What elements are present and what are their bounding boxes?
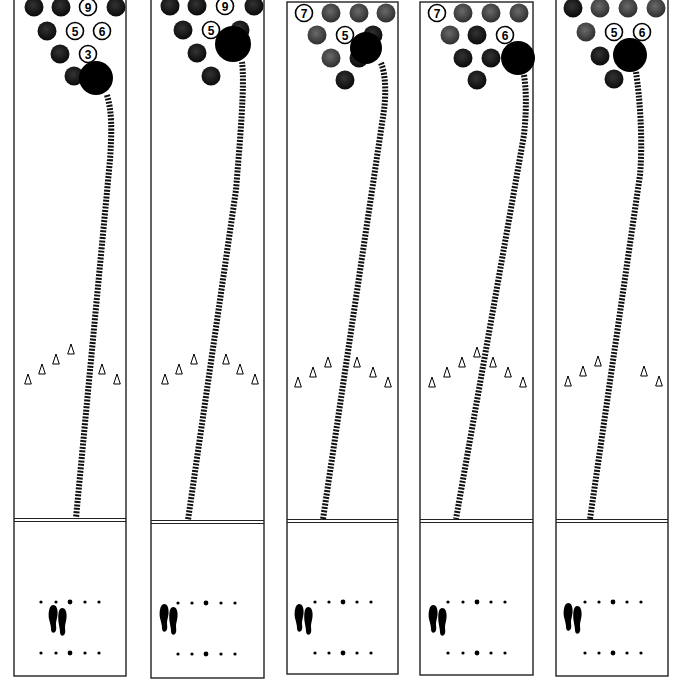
approach-dot	[341, 600, 346, 605]
lane-2: 95	[151, 0, 264, 678]
approach-dot	[597, 651, 600, 654]
knocked-pin	[510, 4, 529, 23]
pin-number: 5	[611, 26, 618, 40]
approach-dot	[176, 652, 179, 655]
lane-diagram-figure: 956395757656	[0, 0, 686, 700]
knocked-pin	[591, 47, 610, 66]
approach-dot	[583, 600, 586, 603]
approach-dot	[461, 600, 464, 603]
lane-outline	[420, 2, 533, 675]
approach-dot	[503, 651, 506, 654]
approach-dot	[97, 651, 100, 654]
approach-dot	[489, 600, 492, 603]
approach-dot	[369, 600, 372, 603]
knocked-pin	[577, 23, 596, 42]
pin-number: 6	[639, 26, 646, 40]
knocked-pin	[202, 67, 221, 86]
approach-dot	[446, 651, 449, 654]
knocked-pin	[454, 49, 473, 68]
lane-outline	[14, 0, 126, 676]
pin-number: 7	[434, 7, 441, 21]
approach-dot	[639, 600, 642, 603]
knocked-pin	[350, 4, 369, 23]
approach-dot	[597, 600, 600, 603]
pin-number: 7	[301, 7, 308, 21]
knocked-pin	[308, 26, 327, 45]
approach-dot	[611, 600, 616, 605]
approach-dot	[625, 651, 628, 654]
knocked-pin	[322, 4, 341, 23]
lane-5: 56	[556, 0, 668, 676]
knocked-pin	[468, 26, 487, 45]
approach-dot	[204, 652, 209, 657]
approach-dot	[341, 651, 346, 656]
knocked-pin	[441, 26, 460, 45]
pin-number: 5	[208, 24, 215, 38]
knocked-pin	[482, 49, 501, 68]
approach-dot	[313, 651, 316, 654]
knocked-pin	[605, 70, 624, 89]
approach-dot	[313, 600, 316, 603]
approach-dot	[639, 651, 642, 654]
approach-dot	[583, 651, 586, 654]
pin-number: 5	[72, 25, 79, 39]
knocked-pin	[454, 4, 473, 23]
bowling-ball	[613, 38, 647, 72]
bowling-ball	[79, 61, 113, 95]
approach-dot	[475, 600, 480, 605]
approach-dot	[233, 601, 236, 604]
approach-dot	[503, 600, 506, 603]
approach-dot	[39, 600, 42, 603]
approach-dot	[327, 600, 330, 603]
pin-number: 9	[85, 1, 92, 15]
approach-dot	[446, 600, 449, 603]
knocked-pin	[377, 4, 396, 23]
knocked-pin	[468, 71, 487, 90]
pin-number: 6	[99, 25, 106, 39]
lane-outline	[151, 0, 264, 678]
lanes-canvas: 956395757656	[0, 0, 686, 700]
approach-dot	[39, 651, 42, 654]
bowling-ball	[350, 32, 382, 64]
knocked-pin	[51, 45, 70, 64]
knocked-pin	[38, 22, 57, 41]
approach-dot	[233, 652, 236, 655]
approach-dot	[625, 600, 628, 603]
bowling-ball	[501, 41, 535, 75]
approach-dot	[355, 600, 358, 603]
approach-dot	[327, 651, 330, 654]
lane-outline	[287, 2, 398, 674]
approach-dot	[611, 651, 616, 656]
lane-1: 9563	[14, 0, 126, 676]
knocked-pin	[482, 4, 501, 23]
approach-dot	[54, 600, 57, 603]
lane-outline	[556, 0, 668, 676]
approach-dot	[204, 601, 209, 606]
approach-dot	[475, 651, 480, 656]
knocked-pin	[336, 71, 355, 90]
approach-dot	[83, 600, 86, 603]
knocked-pin	[188, 44, 207, 63]
approach-dot	[54, 651, 57, 654]
lane-4: 76	[420, 2, 535, 675]
approach-dot	[461, 651, 464, 654]
approach-dot	[219, 652, 222, 655]
approach-dot	[68, 600, 73, 605]
pin-number: 6	[502, 29, 509, 43]
knocked-pin	[322, 49, 341, 68]
approach-dot	[83, 651, 86, 654]
approach-dot	[219, 601, 222, 604]
approach-dot	[176, 601, 179, 604]
approach-dot	[369, 651, 372, 654]
approach-dot	[489, 651, 492, 654]
pin-number: 3	[85, 48, 92, 62]
approach-dot	[190, 652, 193, 655]
bowling-ball	[215, 26, 251, 62]
approach-dot	[190, 601, 193, 604]
approach-dot	[68, 651, 73, 656]
pin-number: 5	[342, 29, 349, 43]
pin-number: 9	[222, 0, 229, 14]
approach-dot	[97, 600, 100, 603]
lane-3: 75	[287, 2, 398, 674]
approach-dot	[355, 651, 358, 654]
